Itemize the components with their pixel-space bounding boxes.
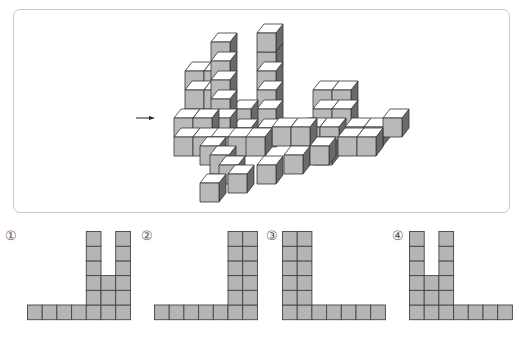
grid-cell bbox=[243, 246, 258, 261]
grid-cell bbox=[169, 305, 184, 320]
grid-cell bbox=[116, 276, 131, 291]
grid-cell bbox=[410, 232, 425, 247]
grid-cell bbox=[410, 246, 425, 261]
grid-cell bbox=[410, 305, 425, 320]
grid-cell bbox=[297, 276, 312, 291]
grid-cell bbox=[101, 290, 116, 305]
option-4-label[interactable]: ④ bbox=[392, 229, 404, 242]
cube bbox=[257, 156, 283, 184]
grid-cell bbox=[86, 290, 101, 305]
grid-cell bbox=[410, 261, 425, 276]
grid-cell bbox=[454, 305, 469, 320]
grid-cell bbox=[439, 246, 454, 261]
grid-cell bbox=[424, 305, 439, 320]
grid-cell bbox=[101, 305, 116, 320]
grid-cell bbox=[228, 232, 243, 247]
grid-cell bbox=[116, 261, 131, 276]
grid-cell bbox=[371, 305, 386, 320]
grid-cell bbox=[155, 305, 170, 320]
grid-cell bbox=[498, 305, 513, 320]
grid-cell bbox=[468, 305, 483, 320]
cube bbox=[200, 174, 226, 202]
option-1-front-view[interactable] bbox=[27, 231, 133, 323]
grid-cell bbox=[86, 261, 101, 276]
grid-cell bbox=[101, 276, 116, 291]
grid-cell bbox=[341, 305, 356, 320]
option-2-front-view[interactable] bbox=[154, 231, 260, 323]
grid-cell bbox=[213, 305, 228, 320]
cube bbox=[310, 137, 336, 165]
grid-cell bbox=[283, 276, 298, 291]
grid-cell bbox=[57, 305, 72, 320]
grid-cell bbox=[116, 305, 131, 320]
option-3-front-view[interactable] bbox=[282, 231, 388, 323]
cube bbox=[383, 109, 409, 137]
cube bbox=[228, 165, 254, 193]
grid-cell bbox=[86, 232, 101, 247]
grid-cell bbox=[410, 276, 425, 291]
cube bbox=[257, 24, 283, 52]
option-4-front-view[interactable] bbox=[409, 231, 515, 323]
grid-cell bbox=[184, 305, 199, 320]
grid-cell bbox=[410, 290, 425, 305]
grid-cell bbox=[283, 261, 298, 276]
grid-cell bbox=[243, 276, 258, 291]
grid-cell bbox=[439, 276, 454, 291]
grid-cell bbox=[116, 246, 131, 261]
grid-cell bbox=[297, 305, 312, 320]
grid-cell bbox=[483, 305, 498, 320]
grid-cell bbox=[228, 276, 243, 291]
grid-cell bbox=[243, 305, 258, 320]
grid-cell bbox=[439, 290, 454, 305]
option-1-label[interactable]: ① bbox=[5, 229, 17, 242]
grid-cell bbox=[297, 232, 312, 247]
grid-cell bbox=[283, 305, 298, 320]
grid-cell bbox=[243, 232, 258, 247]
grid-cell bbox=[297, 261, 312, 276]
grid-cell bbox=[243, 261, 258, 276]
grid-cell bbox=[439, 305, 454, 320]
grid-cell bbox=[86, 246, 101, 261]
grid-cell bbox=[228, 261, 243, 276]
grid-cell bbox=[439, 232, 454, 247]
grid-cell bbox=[42, 305, 57, 320]
option-2-label[interactable]: ② bbox=[141, 229, 153, 242]
grid-cell bbox=[243, 290, 258, 305]
grid-cell bbox=[86, 305, 101, 320]
grid-cell bbox=[86, 276, 101, 291]
grid-cell bbox=[312, 305, 327, 320]
grid-cell bbox=[72, 305, 87, 320]
option-3-label[interactable]: ③ bbox=[266, 229, 278, 242]
grid-cell bbox=[116, 232, 131, 247]
view-direction-arrow-icon bbox=[136, 116, 155, 120]
grid-cell bbox=[356, 305, 371, 320]
grid-cell bbox=[228, 305, 243, 320]
grid-cell bbox=[424, 276, 439, 291]
grid-cell bbox=[28, 305, 43, 320]
grid-cell bbox=[283, 290, 298, 305]
grid-cell bbox=[283, 232, 298, 247]
grid-cell bbox=[327, 305, 342, 320]
grid-cell bbox=[116, 290, 131, 305]
grid-cell bbox=[228, 246, 243, 261]
grid-cell bbox=[199, 305, 214, 320]
grid-cell bbox=[228, 290, 243, 305]
cube bbox=[246, 128, 272, 156]
grid-cell bbox=[297, 290, 312, 305]
grid-cell bbox=[297, 246, 312, 261]
cube bbox=[357, 128, 383, 156]
cube bbox=[284, 146, 310, 174]
grid-cell bbox=[439, 261, 454, 276]
grid-cell bbox=[424, 290, 439, 305]
grid-cell bbox=[283, 246, 298, 261]
